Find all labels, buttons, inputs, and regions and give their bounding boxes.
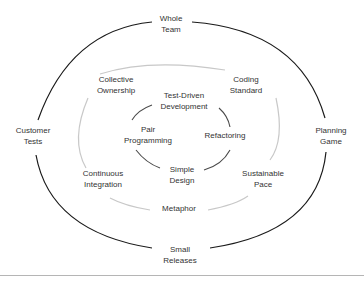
label-pair-programming: Pair Programming <box>124 124 172 146</box>
label-line: Coding <box>230 74 262 85</box>
label-sustainable-pace: Sustainable Pace <box>242 168 284 190</box>
label-continuous-integration: Continuous Integration <box>83 168 123 190</box>
label-line: Whole <box>160 13 183 24</box>
label-collective-ownership: Collective Ownership <box>97 74 135 96</box>
label-line: Customer <box>16 125 51 136</box>
rings-diagram <box>0 0 364 283</box>
label-line: Simple <box>170 164 195 175</box>
label-coding-standard: Coding Standard <box>230 74 262 96</box>
label-line: Development <box>160 101 207 112</box>
bottom-divider <box>0 275 364 276</box>
label-line: Standard <box>230 85 262 96</box>
label-line: Game <box>315 136 346 147</box>
label-line: Programming <box>124 135 172 146</box>
label-line: Planning <box>315 125 346 136</box>
label-line: Refactoring <box>205 130 246 141</box>
label-test-driven-development: Test-Driven Development <box>160 90 207 112</box>
label-metaphor: Metaphor <box>162 203 196 214</box>
label-line: Pace <box>242 179 284 190</box>
outer-ring <box>36 22 326 248</box>
label-line: Releases <box>163 255 196 266</box>
label-small-releases: Small Releases <box>163 244 196 266</box>
label-customer-tests: Customer Tests <box>16 125 51 147</box>
label-line: Pair <box>124 124 172 135</box>
label-line: Tests <box>16 136 51 147</box>
label-line: Design <box>170 175 195 186</box>
label-planning-game: Planning Game <box>315 125 346 147</box>
label-line: Continuous <box>83 168 123 179</box>
label-line: Ownership <box>97 85 135 96</box>
label-refactoring: Refactoring <box>205 130 246 141</box>
label-line: Test-Driven <box>160 90 207 101</box>
label-line: Sustainable <box>242 168 284 179</box>
label-simple-design: Simple Design <box>170 164 195 186</box>
label-line: Metaphor <box>162 203 196 214</box>
label-line: Team <box>160 24 183 35</box>
label-line: Small <box>163 244 196 255</box>
label-whole-team: Whole Team <box>160 13 183 35</box>
label-line: Integration <box>83 179 123 190</box>
label-line: Collective <box>97 74 135 85</box>
